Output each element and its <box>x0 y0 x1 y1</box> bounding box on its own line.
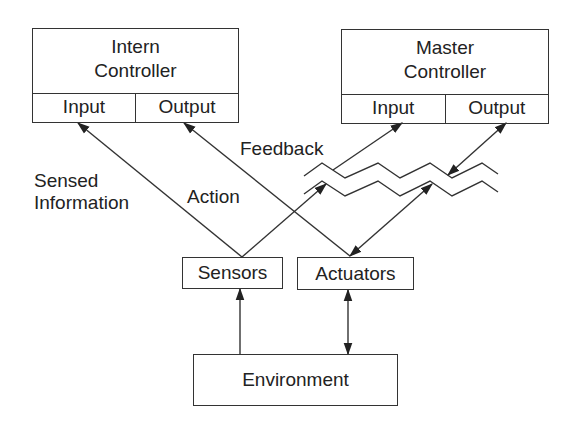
feedback-label: Feedback <box>240 138 323 160</box>
master-controller-title: Master Controller <box>342 36 548 84</box>
intern-title-line2: Controller <box>33 59 238 83</box>
master-output-arrow <box>448 123 506 175</box>
intern-input-port: Input <box>33 94 135 122</box>
comm-link-upper <box>304 163 498 178</box>
actuators-feedback-arrow <box>350 184 432 256</box>
intern-controller-box: Intern Controller Input Output <box>32 28 239 123</box>
control-architecture-diagram: Intern Controller Input Output Master Co… <box>0 0 584 424</box>
sensed-line1: Sensed <box>34 170 129 192</box>
master-output-port: Output <box>445 95 549 123</box>
master-input-port: Input <box>342 95 445 123</box>
sensors-box: Sensors <box>182 257 283 289</box>
master-title-line1: Master <box>342 36 548 60</box>
sensed-line2: Information <box>34 192 129 214</box>
sensors-label: Sensors <box>198 262 268 284</box>
environment-box: Environment <box>193 354 398 406</box>
intern-ports: Input Output <box>33 93 238 122</box>
intern-title-line1: Intern <box>33 35 238 59</box>
master-title-line2: Controller <box>342 60 548 84</box>
environment-label: Environment <box>242 369 349 391</box>
intern-controller-title: Intern Controller <box>33 35 238 83</box>
master-ports: Input Output <box>342 94 548 123</box>
actuators-label: Actuators <box>315 263 395 285</box>
master-controller-box: Master Controller Input Output <box>341 29 549 124</box>
action-label: Action <box>187 186 240 208</box>
comm-link-lower <box>304 181 498 196</box>
master-input-arrow <box>333 123 402 170</box>
sensors-feedback-arrow <box>242 184 326 257</box>
sensed-information-label: Sensed Information <box>34 170 129 214</box>
intern-output-port: Output <box>135 94 238 122</box>
actuators-box: Actuators <box>297 257 414 290</box>
